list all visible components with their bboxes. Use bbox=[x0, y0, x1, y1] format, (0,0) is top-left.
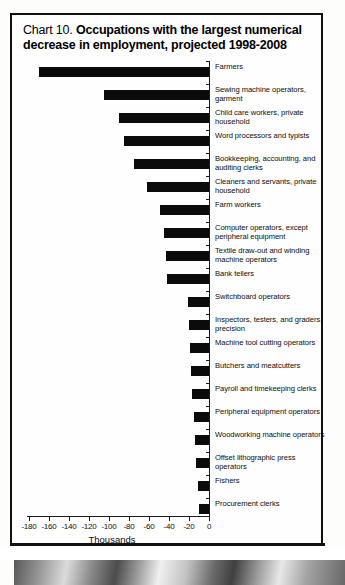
category-label: Butchers and meatcutters bbox=[215, 362, 327, 371]
frame-bottom-edge bbox=[10, 543, 325, 546]
x-tick bbox=[189, 516, 190, 521]
bar-row: Word processors and typists bbox=[12, 130, 321, 153]
category-tick bbox=[206, 337, 210, 338]
x-tick bbox=[49, 516, 50, 521]
bar-row: Bank tellers bbox=[12, 268, 321, 291]
category-label: Procurement clerks bbox=[215, 500, 327, 509]
category-tick bbox=[206, 498, 210, 499]
category-label: Child care workers, private household bbox=[215, 109, 327, 127]
bar-row: Child care workers, private household bbox=[12, 107, 321, 130]
bar bbox=[134, 159, 209, 169]
category-label: Fishers bbox=[215, 477, 327, 486]
bar-row: Computer operators, except peripheral eq… bbox=[12, 222, 321, 245]
category-tick bbox=[206, 360, 210, 361]
category-tick bbox=[206, 268, 210, 269]
category-label: Computer operators, except peripheral eq… bbox=[215, 224, 327, 242]
bar-row: Farm workers bbox=[12, 199, 321, 222]
category-tick bbox=[206, 406, 210, 407]
bar bbox=[160, 205, 209, 215]
bar-row: Machine tool cutting operators bbox=[12, 337, 321, 360]
category-label: Switchboard operators bbox=[215, 293, 327, 302]
x-axis-line bbox=[27, 516, 210, 517]
bar bbox=[124, 136, 209, 146]
bar bbox=[166, 251, 209, 261]
x-tick bbox=[109, 516, 110, 521]
scan-gap bbox=[0, 548, 345, 560]
bar bbox=[189, 320, 209, 330]
category-tick bbox=[206, 130, 210, 131]
category-label: Machine tool cutting operators bbox=[215, 339, 327, 348]
x-tick bbox=[89, 516, 90, 521]
category-tick bbox=[206, 222, 210, 223]
bar-row: Butchers and meatcutters bbox=[12, 360, 321, 383]
category-tick bbox=[206, 314, 210, 315]
bar bbox=[188, 297, 209, 307]
category-tick bbox=[206, 245, 210, 246]
category-tick bbox=[206, 452, 210, 453]
bar-row: Fishers bbox=[12, 475, 321, 498]
x-tick bbox=[69, 516, 70, 521]
category-label: Woodworking machine operators bbox=[215, 431, 327, 440]
x-tick bbox=[129, 516, 130, 521]
category-label: Peripheral equipment operators bbox=[215, 408, 327, 417]
bar-row: Payroll and timekeeping clerks bbox=[12, 383, 321, 406]
bar bbox=[104, 90, 209, 100]
bar-row: Peripheral equipment operators bbox=[12, 406, 321, 429]
category-label: Payroll and timekeeping clerks bbox=[215, 385, 327, 394]
plot-area: FarmersSewing machine operators, garment… bbox=[12, 61, 321, 526]
category-tick bbox=[206, 291, 210, 292]
bar-row: Farmers bbox=[12, 61, 321, 84]
category-tick bbox=[206, 176, 210, 177]
bar-row: Inspectors, testers, and graders, precis… bbox=[12, 314, 321, 337]
category-tick bbox=[206, 383, 210, 384]
x-tick bbox=[149, 516, 150, 521]
scan-artifact-strip bbox=[14, 560, 345, 585]
bar bbox=[164, 228, 209, 238]
category-tick bbox=[206, 107, 210, 108]
bar-row: Textile draw-out and winding machine ope… bbox=[12, 245, 321, 268]
bar bbox=[191, 366, 209, 376]
x-tick bbox=[169, 516, 170, 521]
bar-row: Cleaners and servants, private household bbox=[12, 176, 321, 199]
category-tick bbox=[206, 429, 210, 430]
bar bbox=[192, 389, 209, 399]
category-label: Bank tellers bbox=[215, 270, 327, 279]
category-label: Farmers bbox=[215, 63, 327, 72]
bar bbox=[196, 458, 209, 468]
x-tick bbox=[29, 516, 30, 521]
category-label: Bookkeeping, accounting, and auditing cl… bbox=[215, 155, 327, 173]
bar-row: Offset lithographic press operators bbox=[12, 452, 321, 475]
category-label: Textile draw-out and winding machine ope… bbox=[215, 247, 327, 265]
bar bbox=[147, 182, 209, 192]
bar bbox=[199, 504, 209, 514]
category-tick bbox=[206, 61, 210, 62]
category-tick bbox=[206, 475, 210, 476]
bar bbox=[190, 343, 209, 353]
bar-row: Procurement clerks bbox=[12, 498, 321, 521]
chart-title-prefix: Chart 10. bbox=[23, 23, 76, 37]
category-label: Offset lithographic press operators bbox=[215, 454, 327, 472]
category-label: Inspectors, testers, and graders, precis… bbox=[215, 316, 327, 334]
bar bbox=[39, 67, 209, 77]
category-label: Farm workers bbox=[215, 201, 327, 210]
category-label: Cleaners and servants, private household bbox=[215, 178, 327, 196]
bar bbox=[198, 481, 209, 491]
bar-row: Sewing machine operators, garment bbox=[12, 84, 321, 107]
category-label: Word processors and typists bbox=[215, 132, 327, 141]
x-tick bbox=[209, 516, 210, 521]
category-tick bbox=[206, 153, 210, 154]
bar bbox=[195, 435, 209, 445]
category-label: Sewing machine operators, garment bbox=[215, 86, 327, 104]
category-tick bbox=[206, 84, 210, 85]
bar-row: Woodworking machine operators bbox=[12, 429, 321, 452]
chart-page: Chart 10. Occupations with the largest n… bbox=[0, 0, 345, 585]
x-tick-label: 0 bbox=[196, 522, 222, 531]
chart-frame: Chart 10. Occupations with the largest n… bbox=[10, 13, 323, 545]
category-tick bbox=[206, 199, 210, 200]
bar-rows: FarmersSewing machine operators, garment… bbox=[12, 61, 321, 516]
bar-row: Switchboard operators bbox=[12, 291, 321, 314]
bar bbox=[119, 113, 209, 123]
bar bbox=[167, 274, 209, 284]
chart-title: Chart 10. Occupations with the largest n… bbox=[23, 23, 315, 52]
bar-row: Bookkeeping, accounting, and auditing cl… bbox=[12, 153, 321, 176]
